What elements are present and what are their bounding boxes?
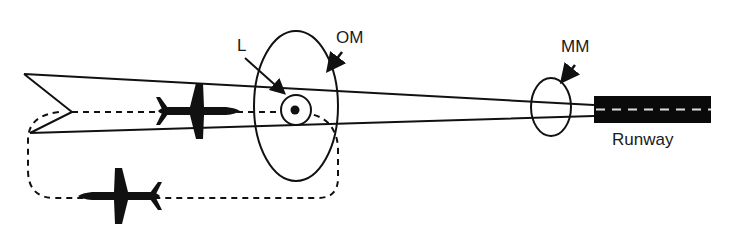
diagram-canvas — [0, 0, 731, 238]
aircraft-inbound-icon — [156, 83, 240, 139]
locator-label: L — [237, 37, 246, 54]
runway — [594, 96, 711, 123]
middle-marker-label: MM — [561, 38, 589, 55]
outer-marker-label: OM — [336, 29, 363, 46]
middle-marker-ellipse — [531, 78, 571, 136]
locator-beacon — [281, 95, 311, 125]
middle-marker-arrow — [563, 65, 575, 80]
ils-approach-diagram: L OM MM Runway — [0, 0, 731, 238]
runway-label: Runway — [612, 131, 673, 148]
aircraft-outbound-icon — [78, 168, 162, 224]
outer-marker-arrow — [329, 52, 342, 69]
